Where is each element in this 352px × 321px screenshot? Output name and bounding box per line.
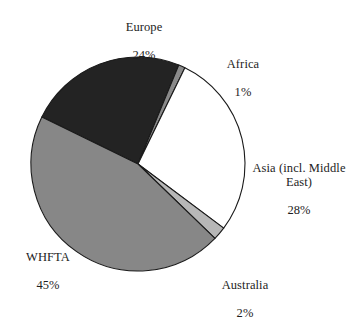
- pie-label-africa-percent: 1%: [196, 85, 290, 99]
- pie-label-whfta-percent: 45%: [2, 278, 94, 292]
- pie-label-australia-name: Australia: [192, 278, 298, 292]
- pie-label-whfta-name: WHFTA: [2, 250, 94, 264]
- pie-label-europe-percent: 24%: [92, 48, 196, 62]
- pie-label-africa-name: Africa: [196, 57, 290, 71]
- pie-label-europe-name: Europe: [92, 20, 196, 34]
- pie-label-asia-percent: 28%: [248, 203, 350, 217]
- pie-label-europe: Europe 24%: [92, 6, 196, 76]
- pie-label-asia-name: Asia (incl. Middle East): [248, 161, 350, 189]
- pie-label-whfta: WHFTA 45%: [2, 236, 94, 306]
- pie-label-australia-percent: 2%: [192, 306, 298, 320]
- pie-label-asia: Asia (incl. Middle East) 28%: [248, 147, 350, 231]
- pie-label-australia: Australia 2%: [192, 264, 298, 321]
- pie-label-africa: Africa 1%: [196, 43, 290, 113]
